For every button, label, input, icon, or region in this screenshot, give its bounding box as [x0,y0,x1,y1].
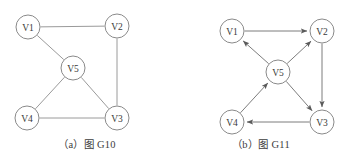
graph-arc [243,41,268,64]
graph-arc [240,83,267,113]
node-label: V4 [21,114,33,124]
graph-canvas-g10: V1V2V5V4V3 [0,0,174,136]
node-label: V2 [111,22,123,32]
graph-edge [81,77,108,108]
graph-node-v3[interactable]: V3 [105,106,129,130]
node-label: V3 [111,114,123,124]
graph-arc [286,81,312,110]
graph-node-v1[interactable]: V1 [220,19,244,43]
node-layer: V1V2V5V4V3 [15,14,129,130]
graph-node-v5[interactable]: V5 [266,60,290,84]
figure-panel-g11: V1V2V5V4V3 （b）图 G11 [174,0,348,162]
graph-node-v5[interactable]: V5 [61,56,85,80]
graph-node-v3[interactable]: V3 [310,110,334,134]
node-label: V5 [272,68,284,78]
node-label: V5 [67,64,79,74]
graph-arc [287,41,311,63]
graph-node-v4[interactable]: V4 [15,106,39,130]
node-label: V1 [22,23,34,33]
graph-node-v4[interactable]: V4 [220,110,244,134]
graph-edge [41,26,105,27]
graph-node-v2[interactable]: V2 [310,19,334,43]
figure-caption-g10: （a）图 G10 [0,136,174,151]
graph-node-v1[interactable]: V1 [16,15,40,39]
graph-node-v2[interactable]: V2 [105,14,129,38]
node-layer: V1V2V5V4V3 [220,19,334,134]
graph-edge [35,77,64,109]
figure-container: V1V2V5V4V3 （a）图 G10 V1V2V5V4V3 （b）图 G11 [0,0,348,162]
node-label: V2 [316,27,328,37]
graph-edge [37,35,64,59]
node-label: V1 [226,27,238,37]
graph-canvas-g11: V1V2V5V4V3 [174,0,348,136]
figure-caption-g11: （b）图 G11 [174,136,348,151]
figure-panel-g10: V1V2V5V4V3 （a）图 G10 [0,0,174,162]
node-label: V3 [316,118,328,128]
node-label: V4 [226,118,238,128]
